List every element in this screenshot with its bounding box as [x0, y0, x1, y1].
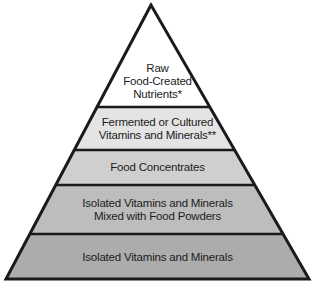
level-label-fermented: Fermented or Cultured Vitamins and Miner… [0, 116, 315, 142]
pyramid-shape [0, 0, 315, 286]
level-label-raw: Raw Food-Created Nutrients* [0, 62, 315, 101]
level-label-isolated: Isolated Vitamins and Minerals [0, 251, 315, 264]
level-label-mixed: Isolated Vitamins and Minerals Mixed wit… [0, 197, 315, 223]
level-label-concentrates: Food Concentrates [0, 161, 315, 174]
